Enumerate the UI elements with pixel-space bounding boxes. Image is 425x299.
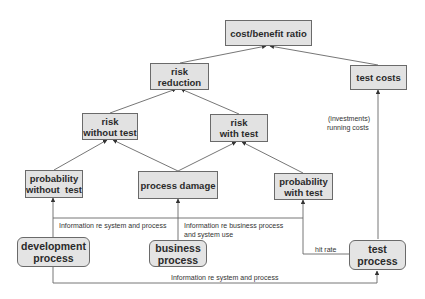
edge-test-costs-to-cost-benefit	[270, 46, 378, 65]
node-label: test costs	[356, 72, 400, 83]
node-label-line2: reduction	[158, 77, 201, 88]
node-risk-without-test: risk without test	[82, 113, 138, 140]
edge-label-business-info-2: and system use	[184, 230, 233, 239]
edge-damage-to-risk-without	[113, 140, 178, 171]
node-business-process: business process	[149, 240, 207, 267]
node-label-line2: process	[33, 252, 73, 264]
node-cost-benefit-ratio: cost/benefit ratio	[225, 20, 312, 46]
edge-risk-reduction-to-cost-benefit	[180, 46, 266, 63]
node-label-line2: without test	[26, 184, 82, 195]
node-label: test process	[350, 243, 405, 267]
node-label-line1: development	[21, 240, 86, 252]
node-label: cost/benefit ratio	[230, 28, 307, 39]
node-probability-with-test: probability with test	[274, 173, 333, 200]
edge-risk-without-to-risk-reduction	[110, 89, 176, 113]
node-label-line1: risk	[231, 117, 248, 128]
edge-prob-with-to-risk-with	[242, 142, 303, 173]
node-test-costs: test costs	[350, 65, 407, 90]
node-risk-with-test: risk with test	[210, 114, 268, 142]
edge-damage-to-risk-with	[178, 142, 236, 171]
node-process-damage: process damage	[138, 171, 218, 199]
node-label-line1: risk	[171, 66, 188, 77]
node-label-line2: with test	[220, 128, 259, 139]
node-development-process: development process	[17, 237, 90, 267]
edge-label-hit-rate: hit rate	[315, 245, 336, 254]
edge-label-dev-to-test-info: Information re system and process	[171, 273, 278, 282]
node-label: process damage	[141, 180, 216, 191]
edge-label-dev-info: Information re system and process	[59, 221, 166, 230]
node-probability-without-test: probability without test	[25, 170, 83, 198]
node-label-line2: without test	[83, 127, 136, 138]
node-label-line1: business	[155, 242, 201, 254]
edge-prob-without-to-risk-without	[54, 140, 107, 170]
node-label-line2: process	[158, 254, 198, 266]
node-test-process: test process	[349, 240, 406, 270]
diagram-canvas: cost/benefit ratio risk reduction test c…	[0, 0, 425, 299]
edge-label-business-info-1: Information re business process	[184, 221, 283, 230]
node-label-line1: risk	[102, 116, 119, 127]
node-label-line2: with test	[284, 187, 323, 198]
edge-risk-with-to-risk-reduction	[181, 89, 239, 114]
node-label-line1: probability	[279, 176, 328, 187]
node-risk-reduction: risk reduction	[150, 63, 209, 90]
node-label-line1: probability	[30, 173, 79, 184]
edge-label-costs-2: running costs	[327, 123, 369, 132]
edge-label-costs-1: (investments)	[328, 114, 370, 123]
